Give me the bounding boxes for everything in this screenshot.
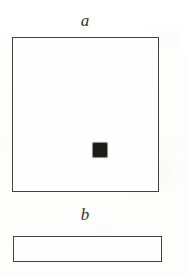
panel-a-square-outline — [12, 37, 159, 192]
center-square-marker — [93, 143, 107, 157]
figure-canvas: a b — [0, 0, 187, 277]
panel-label-a: a — [65, 12, 105, 29]
panel-label-b: b — [65, 206, 105, 223]
panel-b-rectangle-outline — [13, 236, 162, 262]
